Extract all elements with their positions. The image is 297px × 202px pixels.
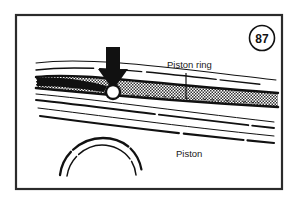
technical-figure: 87 Piston ring Piston [0,0,297,202]
figure-number-badge: 87 [250,26,275,51]
circle-highlight-icon [106,85,120,99]
piston-ring-label: Piston ring [167,59,212,70]
figure-number-text: 87 [255,32,269,46]
figure-canvas: 87 Piston ring Piston [0,0,297,202]
piston-label: Piston [176,148,202,159]
